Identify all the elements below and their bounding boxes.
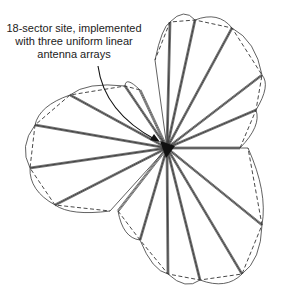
sector-spoke [166, 149, 261, 226]
sector-spoke [30, 149, 167, 169]
sector-spoke [55, 147, 167, 204]
sector-petal [140, 148, 168, 274]
sector-boundary-spokes [30, 20, 263, 280]
sector-spoke [168, 148, 201, 280]
sector-spoke [168, 28, 233, 148]
sector-pattern-diagram [0, 0, 289, 294]
sector-petal [25, 125, 167, 168]
sector-spoke [166, 148, 241, 274]
sector-spoke [139, 148, 166, 240]
sector-spoke [166, 148, 199, 280]
sector-spoke [168, 148, 243, 274]
sector-spoke [166, 28, 231, 148]
sector-spoke [119, 149, 168, 212]
sector-petal [30, 148, 167, 205]
dashed-hexagon [30, 86, 140, 211]
sector-spoke [30, 147, 167, 167]
sector-spoke [167, 111, 256, 149]
sector-spoke [168, 147, 263, 224]
sector-petal [167, 148, 262, 274]
sector-spoke [70, 96, 167, 149]
